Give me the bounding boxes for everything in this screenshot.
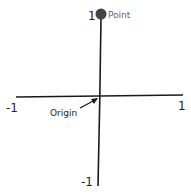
y-min-label: -1 — [81, 175, 93, 189]
y-max-label: 1 — [88, 9, 96, 23]
point-label: Point — [108, 10, 131, 20]
axes-diagram: 1 Point -1 1 -1 Origin — [0, 0, 191, 194]
x-min-label: -1 — [6, 101, 18, 115]
origin-label: Origin — [50, 108, 77, 118]
x-max-label: 1 — [178, 99, 186, 113]
point-marker — [96, 9, 107, 20]
y-axis — [98, 17, 101, 186]
